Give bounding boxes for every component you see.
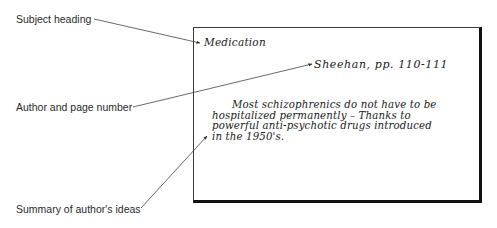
subject-heading-arrow <box>94 19 200 43</box>
card-summary: Most schizophrenics do not have to be ho… <box>212 100 474 142</box>
subject-heading-label: Subject heading <box>16 13 91 25</box>
summary-label: Summary of author's ideas <box>16 203 141 215</box>
summary-line: Most schizophrenics do not have to be <box>212 100 474 111</box>
note-card: Medication Sheehan, pp. 110-111 Most sch… <box>193 27 482 203</box>
summary-line: powerful anti-psychotic drugs introduced <box>212 121 474 132</box>
summary-line: in the 1950's. <box>212 132 474 143</box>
author-page-label: Author and page number <box>16 101 132 113</box>
card-subject-heading: Medication <box>204 36 266 48</box>
card-author-page: Sheehan, pp. 110-111 <box>314 58 448 71</box>
